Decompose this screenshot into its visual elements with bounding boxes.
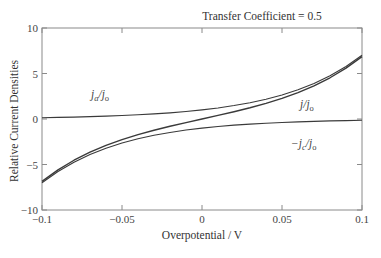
plot-labels: Transfer Coefficient = 0.5Overpotential … — [8, 10, 322, 242]
y-tick-label: 10 — [27, 22, 39, 34]
anodic-curve-label: ja/jo — [89, 88, 109, 103]
x-tick-label: 0.05 — [272, 213, 292, 225]
y-tick-label: −10 — [21, 204, 39, 216]
plot-curves — [42, 55, 362, 182]
y-tick-label: −5 — [26, 159, 38, 171]
x-axis-title: Overpotential / V — [162, 229, 243, 242]
y-tick-label: 0 — [33, 113, 39, 125]
x-tick-label: 0 — [199, 213, 205, 225]
net-current-curve-label: j/jo — [298, 98, 314, 113]
chart-title: Transfer Coefficient = 0.5 — [202, 10, 322, 22]
plot-axes: −0.1−0.0500.050.1−10−50510 — [21, 22, 369, 225]
cathodic-curve-label: −jc/jo — [291, 137, 316, 152]
y-axis-title: Relative Current Densities — [8, 59, 20, 182]
y-tick-label: 5 — [33, 68, 39, 80]
net-current-curve — [42, 57, 362, 182]
x-tick-label: 0.1 — [355, 213, 369, 225]
x-tick-label: −0.05 — [109, 213, 135, 225]
chart: −0.1−0.0500.050.1−10−50510 Transfer Coef… — [0, 0, 381, 258]
